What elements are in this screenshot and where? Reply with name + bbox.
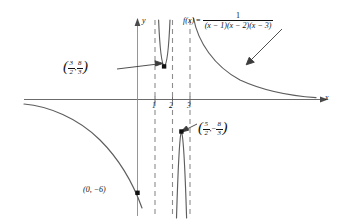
label-local-max-point: ( 5 2 ,− 8 3 ) [198, 121, 228, 137]
point-local-max [179, 129, 183, 133]
label-y-intercept: (0, −6) [83, 186, 106, 194]
formula-denominator: (x − 1)(x − 2)(x − 3) [203, 20, 274, 30]
callout-leaders [117, 29, 282, 132]
function-formula-label: f(x)= 1 (x − 1)(x − 2)(x − 3) [183, 11, 273, 30]
den-3b: 3 [216, 129, 223, 138]
x-axis-label: x [325, 94, 329, 102]
formula-fraction: 1 (x − 1)(x − 2)(x − 3) [203, 11, 274, 30]
curve-branch-two-three [177, 132, 187, 218]
marked-points [135, 64, 183, 195]
x-tick-label-3: 3 [187, 102, 191, 110]
function-graph-figure: f(x)= 1 (x − 1)(x − 2)(x − 3) ( 3 2 , 8 … [0, 0, 347, 222]
curve-branch-one-two [159, 20, 170, 66]
equals-sign: = [194, 16, 203, 25]
formula-numerator: 1 [203, 11, 274, 20]
leader-formula [250, 29, 282, 61]
function-name: f(x) [183, 16, 194, 25]
axes-group [24, 18, 328, 216]
y-axis-arrowhead [135, 18, 141, 26]
function-curve [24, 18, 316, 218]
graph-canvas [0, 0, 347, 222]
x-tick-label-1: 1 [152, 102, 156, 110]
num-8b: 8 [216, 121, 223, 129]
point-local-min [162, 64, 166, 68]
label-local-min-point: ( 3 2 , 8 3 ) [63, 60, 88, 76]
x-tick-label-2: 2 [169, 102, 173, 110]
y-axis-label: y [142, 17, 146, 25]
point-y-intercept [135, 191, 139, 195]
fraction-neg-eight-thirds: 8 3 [216, 121, 223, 137]
